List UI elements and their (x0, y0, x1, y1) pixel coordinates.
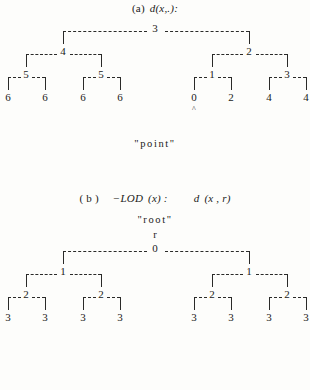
point-label: "point" (0, 138, 310, 149)
panel-b-caption: ( b )−LOD(x) :d(x , r) (0, 192, 310, 204)
tree-b-leaf-6: 3 (262, 312, 276, 323)
tree-b-edge-root-right (165, 251, 249, 252)
tree-a-leaf-0: 6 (1, 92, 15, 103)
panel-b-caption-label: ( b ) (79, 192, 98, 204)
tree-a-node-l1-1: 2 (242, 46, 256, 57)
figure-canvas: (a)d(x,.): 3 4 2 5 5 1 3 6 6 6 6 0 2 4 4 (0, 0, 310, 390)
tree-a-edge-l2-0b (32, 77, 45, 78)
tree-b-edge-l2-3b (293, 297, 306, 298)
tree-a-edge-l2-2a (194, 77, 207, 78)
tree-b-stem-leaf-4 (194, 297, 195, 310)
tree-b-stem-leaf-1 (45, 297, 46, 310)
tree-a-leaf-6: 4 (262, 92, 276, 103)
tree-b-edge-l2-0b (32, 297, 45, 298)
panel-b-caption-func: −LOD (113, 192, 143, 204)
point-marker-icon: ^ (187, 106, 201, 114)
tree-a-leaf-4: 0 (187, 92, 201, 103)
tree-a-stem-leaf-6 (269, 77, 270, 90)
tree-b-node-l2-3: 2 (280, 289, 294, 300)
tree-a-edge-l2-1b (107, 77, 120, 78)
tree-b-stem-leaf-3 (120, 297, 121, 310)
tree-a-edge-l2-3b (293, 77, 306, 78)
tree-b-edge-l2-1b (107, 297, 120, 298)
tree-b-node-l2-0: 2 (19, 289, 33, 300)
tree-a-stem-l1-left (63, 31, 64, 44)
panel-a-caption-label: (a) (132, 2, 145, 14)
tree-b-edge-l1-left-b (70, 274, 101, 275)
tree-b-stem-l1-left (63, 251, 64, 264)
tree-a-edge-l1-left-a (26, 54, 57, 55)
tree-b-node-l1-0: 1 (56, 266, 70, 277)
panel-b-caption-args: (x) : (148, 192, 168, 204)
tree-b-leaf-2: 3 (76, 312, 90, 323)
tree-b-stem-l2-1 (101, 274, 102, 287)
tree-a-stem-leaf-0 (8, 77, 9, 90)
tree-b-node-l2-2: 2 (205, 289, 219, 300)
tree-b-leaf-3: 3 (113, 312, 127, 323)
tree-a-edge-l2-0a (8, 77, 21, 78)
tree-a-edge-l2-2b (218, 77, 231, 78)
tree-b-leaf-0: 3 (1, 312, 15, 323)
tree-b-edge-l2-1a (83, 297, 96, 298)
tree-a-node-root: 3 (148, 23, 162, 34)
tree-b-edge-l1-right-b (256, 274, 287, 275)
tree-b-edge-l2-2b (218, 297, 231, 298)
tree-a-stem-leaf-7 (306, 77, 307, 90)
tree-a-leaf-5: 2 (224, 92, 238, 103)
tree-a-leaf-1: 6 (38, 92, 52, 103)
tree-b-leaf-5: 3 (224, 312, 238, 323)
tree-a-edge-l1-right-a (212, 54, 243, 55)
tree-b-node-l2-1: 2 (94, 289, 108, 300)
tree-a-edge-root-right (165, 31, 249, 32)
tree-a-stem-l2-0 (26, 54, 27, 67)
tree-a-stem-leaf-3 (120, 77, 121, 90)
tree-b-stem-l2-0 (26, 274, 27, 287)
tree-a-leaf-3: 6 (113, 92, 127, 103)
tree-b-stem-leaf-6 (269, 297, 270, 310)
tree-a-stem-leaf-2 (83, 77, 84, 90)
tree-a-edge-l1-right-b (256, 54, 287, 55)
tree-a-stem-l2-2 (212, 54, 213, 67)
tree-a-stem-leaf-1 (45, 77, 46, 90)
tree-a-leaf-7: 4 (299, 92, 310, 103)
tree-b-edge-l2-2a (194, 297, 207, 298)
tree-b-edge-l2-3a (269, 297, 282, 298)
tree-b-stem-l1-right (249, 251, 250, 264)
tree-b-stem-leaf-7 (306, 297, 307, 310)
tree-a-node-l2-1: 5 (94, 69, 108, 80)
tree-b-leaf-7: 3 (299, 312, 310, 323)
tree-b-node-root: 0 (148, 243, 162, 254)
tree-b-edge-l1-left-a (26, 274, 57, 275)
tree-a-edge-l1-left-b (70, 54, 101, 55)
tree-b-edge-l2-0a (8, 297, 21, 298)
tree-a-stem-l2-3 (287, 54, 288, 67)
tree-b-edge-l1-right-a (212, 274, 243, 275)
tree-b-leaf-1: 3 (38, 312, 52, 323)
panel-a-caption-args: (x,.): (155, 2, 178, 14)
tree-a-node-l2-0: 5 (19, 69, 33, 80)
tree-a-stem-leaf-5 (231, 77, 232, 90)
tree-a-stem-l1-right (249, 31, 250, 44)
panel-a-caption: (a)d(x,.): (0, 2, 310, 14)
tree-a-node-l2-3: 3 (280, 69, 294, 80)
root-variable-label: r (0, 229, 310, 240)
tree-b-stem-l2-2 (212, 274, 213, 287)
tree-a-leaf-2: 6 (76, 92, 90, 103)
tree-a-edge-l2-1a (83, 77, 96, 78)
tree-a-edge-l2-3a (269, 77, 282, 78)
tree-b-stem-leaf-2 (83, 297, 84, 310)
tree-b-edge-root-left (63, 251, 147, 252)
tree-b-stem-leaf-5 (231, 297, 232, 310)
tree-a-stem-leaf-4 (194, 77, 195, 90)
panel-b-caption-right-args: (x , r) (204, 192, 230, 204)
tree-a-stem-l2-1 (101, 54, 102, 67)
tree-b-node-l1-1: 1 (242, 266, 256, 277)
tree-a-edge-root (63, 31, 147, 32)
tree-b-leaf-4: 3 (187, 312, 201, 323)
tree-a-node-l1-0: 4 (56, 46, 70, 57)
root-label: "root" (0, 214, 310, 225)
tree-a-node-l2-2: 1 (205, 69, 219, 80)
panel-b-caption-right-func: d (194, 192, 200, 204)
tree-b-stem-l2-3 (287, 274, 288, 287)
tree-b-stem-leaf-0 (8, 297, 9, 310)
